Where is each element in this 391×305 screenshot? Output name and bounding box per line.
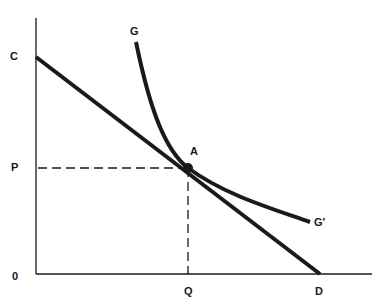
label-a: A (190, 146, 198, 157)
label-g-prime: G′ (314, 217, 325, 228)
indifference-curve-gg (136, 42, 310, 222)
label-q: Q (184, 286, 193, 297)
label-p: P (11, 162, 18, 173)
label-c: C (10, 51, 18, 62)
label-g: G (130, 26, 139, 37)
tangency-point-a (183, 163, 193, 173)
label-d: D (315, 286, 323, 297)
label-origin: 0 (12, 271, 18, 282)
budget-line-cd (36, 57, 320, 274)
